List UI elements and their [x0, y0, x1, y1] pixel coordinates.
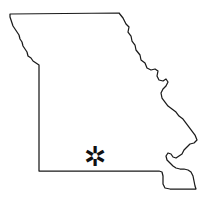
state-outline-map: ✲ [0, 0, 214, 197]
location-asterisk-icon: ✲ [84, 143, 107, 170]
missouri-map-svg [0, 0, 214, 197]
